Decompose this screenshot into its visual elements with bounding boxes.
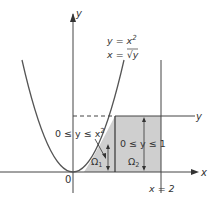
region2-condition: 0 ≤ y ≤ 1 xyxy=(120,138,166,149)
region1-condition: 0 ≤ y ≤ x2 xyxy=(55,127,105,139)
diagram-canvas: y x 0 y = x2 x = √y y x = 2 0 ≤ y ≤ x2 0… xyxy=(0,0,208,197)
curve-equation-1: y = x2 xyxy=(106,34,137,46)
diagram-root: y x 0 y = x2 x = √y y x = 2 0 ≤ y ≤ x2 0… xyxy=(0,0,208,197)
line-x2-label: x = 2 xyxy=(148,183,175,194)
x-axis-arrow-icon xyxy=(191,169,199,175)
y-axis-label: y xyxy=(75,8,83,19)
x-axis-label: x xyxy=(200,167,207,178)
curve-equation-2: x = √y xyxy=(106,49,139,60)
origin-label: 0 xyxy=(65,174,71,185)
line-y1-label: y xyxy=(195,111,203,122)
